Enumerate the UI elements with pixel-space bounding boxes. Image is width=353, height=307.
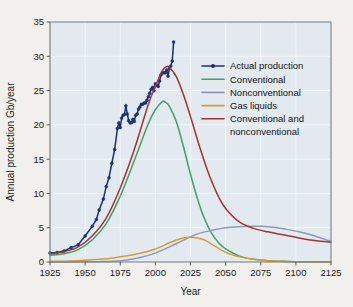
xtick-label: 2100 [285, 267, 306, 278]
data-point-marker [164, 71, 167, 74]
xtick-label: 1975 [110, 267, 131, 278]
data-point-marker [98, 208, 101, 211]
xtick-label: 1950 [75, 267, 96, 278]
data-point-marker [126, 112, 129, 115]
data-point-marker [167, 75, 170, 78]
data-point-marker [144, 101, 147, 104]
ytick-label: 20 [33, 119, 44, 130]
legend-item-label: Conventional [230, 74, 285, 85]
legend-item-label: Gas liquids [230, 100, 277, 111]
data-point-marker [171, 60, 174, 63]
legend-item-label: nonconventional [230, 126, 299, 137]
xtick-label: 2050 [215, 267, 236, 278]
data-point-marker [151, 86, 154, 89]
data-point-marker [116, 127, 119, 130]
data-point-marker [145, 99, 148, 102]
chart-container: 1925195019752000202520502075210021250510… [0, 0, 353, 307]
data-point-marker [110, 162, 113, 165]
data-point-marker [147, 95, 150, 98]
ytick-label: 0 [39, 256, 44, 267]
data-point-marker [130, 121, 133, 124]
data-point-marker [91, 225, 94, 228]
ytick-label: 30 [33, 51, 44, 62]
x-axis-title: Year [180, 286, 201, 297]
data-point-marker [123, 113, 126, 116]
data-point-marker [117, 121, 120, 124]
data-point-marker [157, 85, 160, 88]
data-point-marker [133, 120, 136, 123]
legend-item-label: Actual production [230, 60, 303, 71]
legend-swatch-marker [211, 64, 215, 68]
ytick-label: 5 [39, 222, 44, 233]
data-point-marker [165, 69, 168, 72]
data-point-marker [148, 92, 151, 95]
data-point-marker [105, 185, 108, 188]
ytick-label: 15 [33, 154, 44, 165]
data-point-marker [102, 197, 105, 200]
data-point-marker [124, 104, 127, 107]
legend-item-label: Nonconventional [230, 87, 301, 98]
legend-item-label: Conventional and [230, 113, 304, 124]
chart-svg: 1925195019752000202520502075210021250510… [0, 0, 353, 307]
data-point-marker [172, 40, 175, 43]
data-point-marker [70, 246, 73, 249]
xtick-label: 2075 [250, 267, 271, 278]
data-point-marker [136, 112, 139, 115]
data-point-marker [108, 176, 111, 179]
ytick-label: 35 [33, 16, 44, 27]
data-point-marker [119, 126, 122, 129]
data-point-marker [113, 148, 116, 151]
xtick-label: 2025 [180, 267, 201, 278]
xtick-label: 2125 [320, 267, 341, 278]
ytick-label: 10 [33, 188, 44, 199]
data-point-marker [120, 117, 123, 120]
xtick-label: 2000 [145, 267, 166, 278]
data-point-marker [138, 106, 141, 109]
data-point-marker [84, 234, 87, 237]
ytick-label: 25 [33, 85, 44, 96]
xtick-label: 1925 [39, 267, 60, 278]
y-axis-title: Annual production Gb/year [5, 82, 16, 202]
data-point-marker [95, 218, 98, 221]
